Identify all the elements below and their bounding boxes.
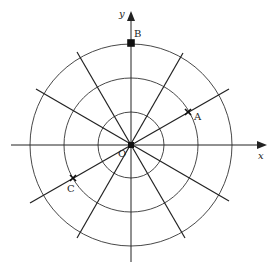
origin-marker [128,142,134,148]
point-b-label: B [134,28,141,39]
point-c-label: C [67,183,75,194]
axes [11,16,262,262]
y-axis-label: y [118,8,125,19]
polar-coordinate-diagram: O x y A B C [0,0,274,275]
y-axis-arrow-icon [127,11,135,21]
x-axis-arrow-icon [257,141,267,149]
point-a-label: A [193,111,202,122]
origin-label: O [118,148,126,159]
point-b-marker-icon [128,40,134,46]
point-c-marker-icon [70,175,76,181]
x-axis-label: x [258,150,264,161]
